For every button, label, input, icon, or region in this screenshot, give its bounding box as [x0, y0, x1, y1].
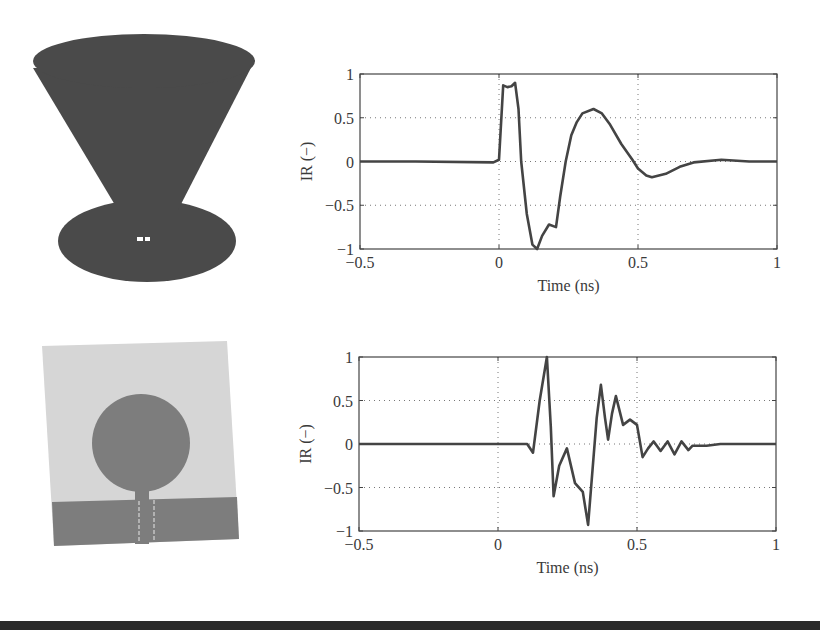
- y-tick-label: −0.5: [325, 197, 354, 214]
- bottom-rule: [0, 621, 820, 630]
- x-axis-label: Time (ns): [537, 277, 599, 295]
- feed-port-mark: [137, 237, 143, 241]
- y-tick-label: 0.5: [333, 393, 353, 410]
- planar-antenna-illustration: [42, 341, 239, 546]
- y-tick-label: 0: [346, 154, 354, 171]
- x-axis-label: Time (ns): [536, 559, 598, 577]
- feed-line: [135, 488, 149, 544]
- x-tick-label: 0.5: [627, 536, 647, 553]
- data-series-line: [359, 357, 776, 525]
- y-axis-label: IR (−): [297, 424, 315, 464]
- x-tick-label: 1: [773, 254, 781, 271]
- y-tick-label: −1: [336, 523, 353, 540]
- circular-patch: [92, 394, 190, 492]
- y-tick-label: 1: [345, 349, 353, 366]
- x-tick-label: 0.5: [628, 254, 648, 271]
- data-series-line: [360, 83, 777, 249]
- y-tick-label: −0.5: [324, 480, 353, 497]
- y-axis-label: IR (−): [298, 142, 316, 182]
- x-tick-label: 0: [494, 536, 502, 553]
- x-tick-label: 0: [495, 254, 503, 271]
- impulse-response-plot-planar: −0.500.5110.50−0.5−1Time (ns)IR (−): [297, 349, 780, 577]
- feed-port-mark: [145, 237, 150, 241]
- x-tick-label: 1: [772, 536, 780, 553]
- y-tick-label: 0.5: [334, 110, 354, 127]
- cone-antenna-illustration: [33, 34, 255, 282]
- y-tick-label: 0: [345, 436, 353, 453]
- cone-top-ellipse: [33, 34, 255, 88]
- impulse-response-plot-cone: −0.500.5110.50−0.5−1Time (ns)IR (−): [298, 66, 781, 295]
- y-tick-label: 1: [346, 66, 354, 83]
- y-tick-label: −1: [337, 241, 354, 258]
- figure: −0.500.5110.50−0.5−1Time (ns)IR (−) −0.5…: [0, 0, 820, 630]
